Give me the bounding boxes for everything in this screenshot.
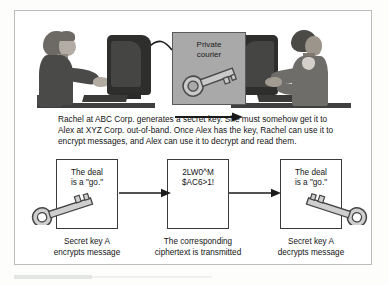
key-icon: [27, 189, 101, 225]
caption-ciphertext: The corresponding ciphertext is transmit…: [142, 237, 254, 258]
caption-rule: [14, 275, 92, 279]
alex-hand: [265, 77, 282, 87]
ciphertext-line1: 2LW0^M: [167, 168, 229, 178]
caption-decrypt: Secret key A decrypts message: [260, 237, 362, 258]
private-courier-label: Private courier: [172, 40, 246, 60]
arrow-right-icon: [229, 188, 281, 198]
ciphertext-line2: $AC6>1!: [167, 178, 229, 188]
ciphertext-text: 2LW0^M $AC6>1!: [167, 168, 229, 189]
caption-encrypt-line2: encrypts message: [37, 248, 137, 259]
plaintext-result-line1: The deal: [280, 168, 342, 178]
plaintext-source-line1: The deal: [56, 168, 118, 178]
plaintext-result-line2: is a "go.": [280, 178, 342, 188]
rachel-lap: [37, 95, 63, 107]
caption-ciphertext-line1: The corresponding: [142, 237, 254, 248]
key-icon: [179, 63, 241, 97]
private-courier-label-line2: courier: [172, 50, 246, 60]
plaintext-result-text: The deal is a "go.": [280, 168, 342, 189]
arrow-right-icon: [119, 188, 171, 198]
monitor-left-screen: [111, 41, 141, 87]
caption-encrypt-line1: Secret key A: [37, 237, 137, 248]
caption-decrypt-line1: Secret key A: [260, 237, 362, 248]
desk-right: [231, 103, 351, 108]
figure-symmetric-key-exchange: Private courier Rachel at ABC Corp. gene…: [0, 0, 388, 285]
caption-ciphertext-line2: ciphertext is transmitted: [142, 248, 254, 259]
private-courier-label-line1: Private: [172, 40, 246, 50]
encryption-flow-diagram: The deal is a "go." 2LW0^M $AC6>1! The d…: [15, 155, 371, 263]
caption-rule-secondary: [92, 276, 212, 278]
caption-encrypt: Secret key A encrypts message: [37, 237, 137, 258]
plaintext-source-line2: is a "go.": [56, 178, 118, 188]
key-icon: [298, 189, 372, 225]
description-paragraph: Rachel at ABC Corp. generates a secret k…: [58, 114, 340, 146]
caption-decrypt-line2: decrypts message: [260, 248, 362, 259]
rachel-bangs: [58, 31, 75, 41]
scene-key-exchange: Private courier: [15, 11, 371, 111]
plaintext-source-text: The deal is a "go.": [56, 168, 118, 189]
keyboard-left: [82, 95, 128, 102]
